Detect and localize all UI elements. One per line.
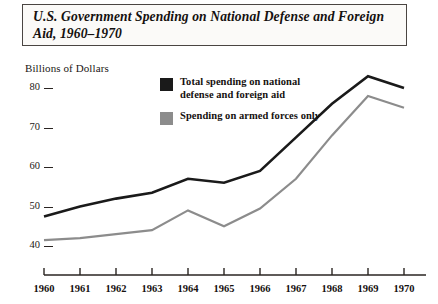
y-tick-mark	[44, 128, 53, 129]
legend-swatch-armed-icon	[160, 112, 173, 125]
x-tick-label: 1960	[27, 283, 61, 294]
y-tick-mark	[44, 167, 53, 168]
x-tick-label: 1961	[63, 283, 97, 294]
x-tick-label: 1962	[99, 283, 133, 294]
legend-swatch-total-icon	[160, 78, 173, 91]
axis-layer	[44, 268, 426, 275]
chart-figure: U.S. Government Spending on National Def…	[0, 0, 438, 304]
y-tick-label: 70	[18, 121, 40, 132]
plot-area	[0, 0, 438, 304]
legend-label-armed: Spending on armed forces only	[180, 110, 320, 123]
legend-label-total: Total spending on national defense and f…	[180, 76, 330, 101]
y-tick-mark	[44, 88, 53, 89]
y-tick-label: 40	[18, 239, 40, 250]
x-tick-label: 1967	[279, 283, 313, 294]
y-tick-mark	[44, 207, 53, 208]
legend-item-total: Total spending on national defense and f…	[160, 76, 330, 101]
x-tick-label: 1970	[387, 283, 421, 294]
y-tick-label: 80	[18, 81, 40, 92]
y-tick-label: 60	[18, 160, 40, 171]
y-tick-label: 50	[18, 200, 40, 211]
legend-item-armed: Spending on armed forces only	[160, 110, 330, 125]
x-tick-label: 1966	[243, 283, 277, 294]
chart-svg	[0, 0, 438, 304]
x-tick-label: 1963	[135, 283, 169, 294]
x-tick-label: 1964	[171, 283, 205, 294]
x-tick-label: 1968	[315, 283, 349, 294]
x-tick-label: 1965	[207, 283, 241, 294]
x-tick-label: 1969	[351, 283, 385, 294]
chart-legend: Total spending on national defense and f…	[160, 76, 330, 134]
y-tick-mark	[44, 246, 53, 247]
